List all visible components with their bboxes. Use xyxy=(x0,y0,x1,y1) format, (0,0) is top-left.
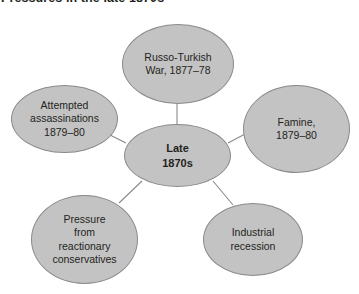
node-label: Attemptedassassinations1879–80 xyxy=(24,99,105,139)
node-hub-late-1870s[interactable]: Late1870s xyxy=(124,124,231,187)
node-attempted-assassinations[interactable]: Attemptedassassinations1879–80 xyxy=(11,85,118,153)
node-industrial-recession[interactable]: Industrialrecession xyxy=(203,203,303,276)
node-reactionary-pressure[interactable]: Pressurefromreactionaryconservatives xyxy=(31,195,138,284)
node-label: Pressurefromreactionaryconservatives xyxy=(46,213,122,267)
node-label: Late1870s xyxy=(156,141,199,170)
node-label: Industrialrecession xyxy=(225,226,282,253)
edge-center-to-pressure xyxy=(119,181,142,203)
node-russo-turkish-war[interactable]: Russo-TurkishWar, 1877–78 xyxy=(122,24,234,104)
node-label: Russo-TurkishWar, 1877–78 xyxy=(138,51,217,78)
node-famine[interactable]: Famine,1879–80 xyxy=(243,85,350,173)
node-label: Famine,1879–80 xyxy=(270,116,323,143)
diagram-canvas: Pressures in the late 1870s Russo-Turkis… xyxy=(0,0,359,294)
edge-center-to-recession xyxy=(213,181,233,205)
